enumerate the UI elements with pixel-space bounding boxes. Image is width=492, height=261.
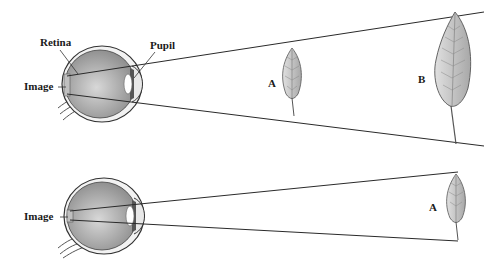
label-retina: Retina xyxy=(40,36,71,48)
top-leaf-a xyxy=(283,48,302,116)
label-image-top: Image xyxy=(24,80,53,92)
label-pupil: Pupil xyxy=(150,39,175,51)
ray-top-lower xyxy=(67,94,484,146)
label-object-b: B xyxy=(418,73,425,85)
bottom-leaf-a xyxy=(447,174,466,240)
top-leaf-b xyxy=(435,12,471,144)
top-eye xyxy=(58,46,143,122)
bottom-eye xyxy=(58,178,145,258)
eye-vision-diagram xyxy=(0,0,492,261)
label-object-a-top: A xyxy=(268,77,276,89)
ray-top-upper xyxy=(67,12,484,76)
label-image-bottom: Image xyxy=(24,210,53,222)
label-object-a-bottom: A xyxy=(429,201,437,213)
